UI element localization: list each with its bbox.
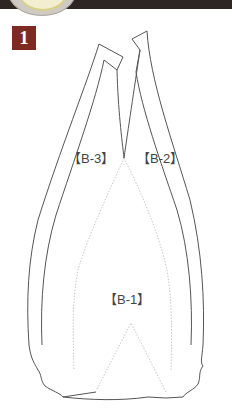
part-label-b3: 【B-3】 (68, 148, 114, 167)
papercraft-pattern-diagram (0, 0, 232, 409)
cut-lines (28, 31, 204, 400)
part-label-b1: 【B-1】 (104, 289, 150, 308)
fold-lines (73, 158, 171, 392)
part-label-b2: 【B-2】 (137, 148, 183, 167)
